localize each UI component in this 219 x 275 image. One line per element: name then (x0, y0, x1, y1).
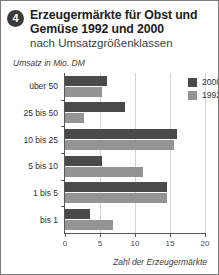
bar-1992 (65, 167, 143, 177)
y-axis-tick (61, 126, 65, 127)
page-title-line1: Erzeugermärkte für Obst und (30, 9, 214, 23)
x-axis-tick (205, 233, 206, 237)
plot-area: über 5025 bis 5010 bis 255 bis 101 bis 5… (64, 73, 205, 233)
chart-header: 4 Erzeugermärkte für Obst und Gemüse 199… (1, 1, 219, 53)
legend-label-2000: 2000 (202, 77, 219, 87)
x-axis-tick (65, 233, 66, 237)
x-axis-tick-label: 15 (166, 239, 175, 248)
y-axis-category-label: 10 bis 25 (24, 135, 59, 145)
page-title-line2: Gemüse 1992 und 2000 (30, 23, 214, 37)
bar-1992 (65, 87, 102, 97)
bar-group: bis 1 (65, 206, 205, 233)
legend-item-2000: 2000 (188, 77, 219, 87)
chart-number-badge: 4 (7, 10, 24, 27)
bar-1992 (65, 193, 167, 203)
title-block: Erzeugermärkte für Obst und Gemüse 1992 … (30, 9, 214, 51)
x-axis-tick (135, 233, 136, 237)
bar-group: 10 bis 25 (65, 126, 205, 153)
x-axis-tick-label: 5 (98, 239, 102, 248)
y-axis-tick (61, 153, 65, 154)
y-axis-tick (61, 206, 65, 207)
x-axis-tick-label: 0 (63, 239, 67, 248)
y-axis-category-label: über 50 (29, 81, 58, 91)
bar-2000 (65, 76, 107, 86)
bar-group: 5 bis 10 (65, 153, 205, 180)
y-axis-tick (61, 180, 65, 181)
x-axis-tick (170, 233, 171, 237)
legend-swatch-icon-2000 (188, 78, 197, 87)
legend-swatch-icon-1992 (188, 91, 197, 100)
x-axis-tick-label: 10 (131, 239, 140, 248)
bar-1992 (65, 113, 84, 123)
y-axis-label: Umsatz in Mio. DM (13, 58, 85, 68)
chart-card: 4 Erzeugermärkte für Obst und Gemüse 199… (0, 0, 219, 275)
legend: 2000 1992 (188, 77, 219, 103)
page-subtitle: nach Umsatzgrößenklassen (30, 37, 214, 51)
bar-group: 25 bis 50 (65, 100, 205, 127)
y-axis-tick (61, 100, 65, 101)
bar-2000 (65, 156, 102, 166)
y-axis-category-label: bis 1 (40, 215, 58, 225)
y-axis-category-label: 25 bis 50 (24, 108, 59, 118)
bar-2000 (65, 209, 90, 219)
bar-2000 (65, 182, 167, 192)
bar-1992 (65, 140, 174, 150)
bar-2000 (65, 102, 125, 112)
x-axis-label: Zahl der Erzeugermärkte (1, 257, 214, 267)
bar-group: über 50 (65, 73, 205, 100)
x-axis-tick (100, 233, 101, 237)
legend-item-1992: 1992 (188, 90, 219, 100)
bar-1992 (65, 220, 113, 230)
x-axis-tick-label: 20 (201, 239, 210, 248)
bar-2000 (65, 129, 177, 139)
y-axis-category-label: 1 bis 5 (33, 188, 58, 198)
y-axis-category-label: 5 bis 10 (28, 161, 58, 171)
legend-label-1992: 1992 (202, 90, 219, 100)
bar-group: 1 bis 5 (65, 180, 205, 207)
